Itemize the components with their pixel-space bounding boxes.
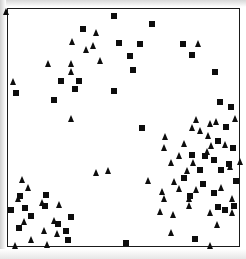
scan-artifact-left <box>0 0 6 259</box>
scan-artifact-bottom <box>0 249 246 259</box>
scan-artifact-top <box>0 0 246 7</box>
plot-area-frame <box>7 8 240 247</box>
scatter-plot-figure <box>0 0 246 259</box>
